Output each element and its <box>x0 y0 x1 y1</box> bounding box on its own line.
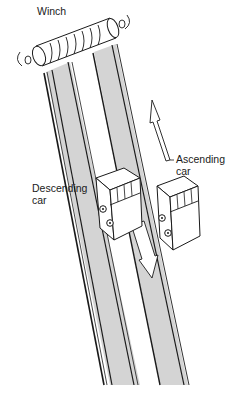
descending-car-label-line2: car <box>32 195 47 206</box>
descending-car <box>96 168 142 240</box>
ascending-car-label-line1: Ascending <box>176 154 225 165</box>
winch-label: Winch <box>37 6 66 17</box>
ascending-arrow-icon <box>150 100 170 161</box>
ascending-car-label-line2: car <box>176 166 191 177</box>
descending-car-label-line1: Descending <box>32 183 87 194</box>
ascending-car <box>157 176 200 250</box>
